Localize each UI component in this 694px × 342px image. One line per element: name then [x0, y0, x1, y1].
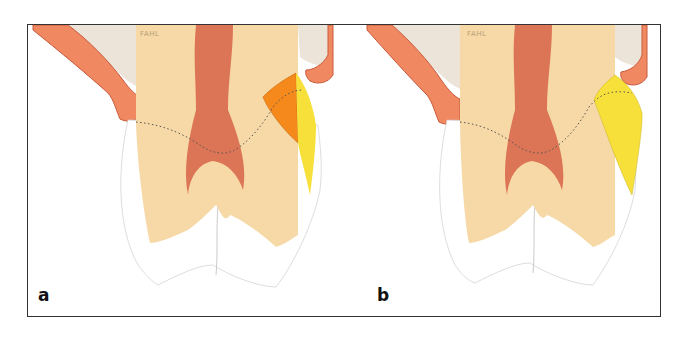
artist-signature: FAHL [140, 30, 159, 38]
tooth-diagram-b [347, 25, 660, 316]
panel-b: FAHL b [347, 25, 660, 316]
tooth-diagram-a [28, 25, 346, 316]
panel-a: FAHL a [28, 25, 346, 316]
panel-label-b: b [377, 285, 389, 305]
artist-signature: FAHL [467, 30, 486, 38]
panel-label-a: a [38, 285, 49, 305]
